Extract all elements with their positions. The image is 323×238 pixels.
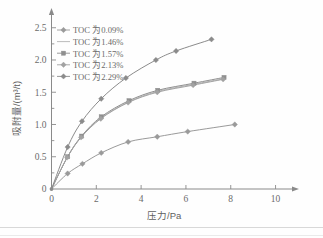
x-tick-label: 6 [184, 194, 189, 204]
series-marker [80, 161, 85, 166]
origin-marker [50, 187, 54, 191]
chart-legend: TOC 为0.09%TOC 为1.46%TOC 为1.57%TOC 为2.13%… [57, 24, 123, 81]
legend-label: TOC 为2.13% [73, 59, 123, 70]
x-axis-title: 压力/Pa [147, 210, 182, 221]
chart-svg: 024681000.51.01.52.02.5压力/Pa吸附量/(m³/t) T… [0, 0, 323, 238]
legend-label: TOC 为0.09% [73, 24, 123, 35]
series-marker [153, 57, 158, 62]
legend-entry[interactable]: TOC 为2.13% [57, 59, 123, 70]
y-tick-label: 2.5 [35, 23, 47, 33]
y-axis-arrow [49, 8, 54, 15]
legend-marker-swatch [61, 62, 66, 67]
series-marker [155, 134, 160, 139]
series-line [52, 79, 224, 189]
y-tick-label: 0.5 [35, 152, 47, 162]
series-marker [125, 139, 130, 144]
legend-label: TOC 为1.46% [73, 36, 123, 47]
legend-label: TOC 为1.57% [73, 48, 123, 59]
series-marker [99, 150, 104, 155]
x-tick-label: 8 [228, 194, 233, 204]
x-tick-label: 0 [49, 194, 54, 204]
y-tick-label: 1.5 [35, 88, 47, 98]
legend-entry[interactable]: TOC 为0.09% [57, 24, 123, 35]
series-marker [232, 122, 237, 127]
legend-marker-swatch [61, 27, 66, 32]
x-axis-arrow [292, 186, 299, 191]
y-axis-title: 吸附量/(m³/t) [11, 81, 22, 136]
series-line [52, 79, 224, 189]
series-marker [185, 129, 190, 134]
series-marker [209, 37, 214, 42]
series-marker [65, 144, 70, 149]
axes-layer [49, 8, 299, 192]
legend-entry[interactable]: TOC 为1.57% [57, 48, 123, 59]
series-line [52, 77, 225, 189]
y-tick-label: 2.0 [35, 55, 47, 65]
figure-container: 024681000.51.01.52.02.5压力/Pa吸附量/(m³/t) T… [0, 0, 323, 238]
x-tick-label: 2 [94, 194, 99, 204]
y-tick-label: 1.0 [35, 120, 47, 130]
series-marker [173, 48, 178, 53]
x-tick-label: 10 [271, 194, 281, 204]
legend-entry[interactable]: TOC 为2.29% [57, 71, 123, 82]
legend-entry[interactable]: TOC 为1.46% [57, 36, 123, 47]
y-tick-label: 0 [42, 184, 47, 194]
legend-marker-swatch [61, 51, 65, 55]
x-tick-label: 4 [139, 194, 144, 204]
page-divider-secondary [0, 235, 323, 236]
legend-marker-swatch [61, 74, 66, 79]
legend-label: TOC 为2.29% [73, 71, 123, 82]
series-line [52, 125, 235, 190]
page-divider [0, 227, 323, 228]
